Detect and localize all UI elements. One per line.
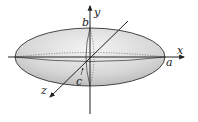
y-axis-label: y — [93, 6, 101, 19]
x-axis-label: x — [177, 44, 184, 57]
semi-axis-c-label: c — [76, 75, 82, 88]
semi-axis-b-label: b — [82, 16, 89, 29]
ellipsoid-diagram: x y z a b c — [0, 0, 198, 122]
ellipsoid-svg: x y z a b c — [0, 0, 198, 122]
semi-axis-a-label: a — [166, 56, 173, 69]
z-axis-label: z — [40, 84, 47, 97]
